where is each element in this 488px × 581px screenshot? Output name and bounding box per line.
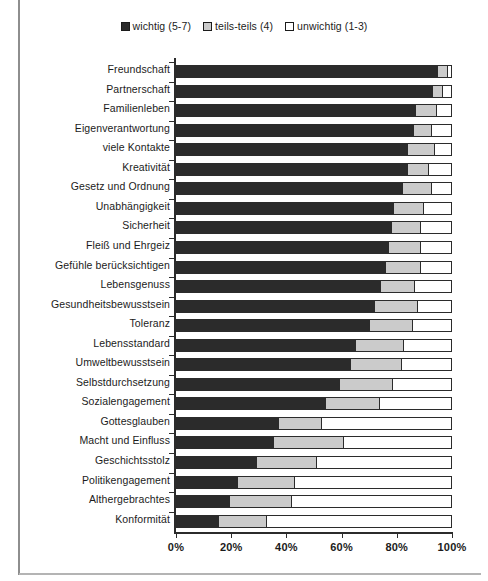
bar-row: Sozialengagement	[0, 394, 488, 414]
bar-segment	[369, 320, 413, 331]
bar-segment	[432, 183, 451, 194]
category-label: Eigenverantwortung	[0, 122, 170, 134]
bar-segment	[229, 496, 292, 507]
bar-segment	[295, 477, 451, 488]
bar-segment	[322, 418, 451, 429]
category-label: Selbstdurchsetzung	[0, 376, 170, 388]
x-axis-tick	[231, 532, 232, 538]
bar-segment	[385, 262, 421, 273]
category-label: Kreativität	[0, 161, 170, 173]
bar-segment	[177, 496, 229, 507]
bar-row: Konformität	[0, 512, 488, 532]
bar-row: Lebensgenuss	[0, 277, 488, 297]
bar-segment	[421, 262, 451, 273]
x-axis-line	[174, 532, 453, 534]
bar-segment	[218, 516, 267, 527]
category-label: Lebensstandard	[0, 337, 170, 349]
bar-row: Macht und Einfluss	[0, 433, 488, 453]
bar-row: Toleranz	[0, 316, 488, 336]
bar-segment	[393, 379, 451, 390]
category-label: Gesetz und Ordnung	[0, 180, 170, 192]
bar-segment	[177, 144, 407, 155]
bar-segment	[177, 105, 415, 116]
bar-segment	[273, 437, 344, 448]
stacked-bar	[176, 456, 452, 469]
stacked-bar	[176, 417, 452, 430]
bar-row: Politikengagement	[0, 473, 488, 493]
category-label: Lebensgenuss	[0, 278, 170, 290]
bar-segment	[325, 398, 380, 409]
category-label: Gottesglauben	[0, 415, 170, 427]
bar-segment	[177, 66, 437, 77]
x-axis-tick-label: 20%	[220, 541, 243, 553]
stacked-bar	[176, 104, 452, 117]
bar-segment	[402, 359, 451, 370]
category-label: Konformität	[0, 513, 170, 525]
category-label: Freundschaft	[0, 63, 170, 75]
bar-row: Althergebrachtes	[0, 492, 488, 512]
bar-segment	[402, 183, 432, 194]
category-label: Althergebrachtes	[0, 493, 170, 505]
bar-row: Kreativität	[0, 160, 488, 180]
bar-row: Geschichtsstolz	[0, 453, 488, 473]
category-label: Toleranz	[0, 317, 170, 329]
category-label: viele Kontakte	[0, 141, 170, 153]
bar-segment	[317, 457, 451, 468]
bar-segment	[177, 379, 339, 390]
bar-segment	[237, 477, 295, 488]
category-label: Sozialengagement	[0, 395, 170, 407]
category-label: Fleiß und Ehrgeiz	[0, 239, 170, 251]
bar-segment	[388, 242, 421, 253]
bar-segment	[407, 144, 434, 155]
stacked-bar	[176, 397, 452, 410]
stacked-bar	[176, 339, 452, 352]
stacked-bar	[176, 319, 452, 332]
bar-segment	[177, 457, 256, 468]
bar-segment	[177, 222, 391, 233]
x-axis-tick	[176, 532, 177, 538]
stacked-bar	[176, 221, 452, 234]
bar-segment	[429, 164, 451, 175]
bar-segment	[292, 496, 451, 507]
bar-segment	[374, 301, 418, 312]
bar-segment	[177, 301, 374, 312]
bar-segment	[413, 125, 432, 136]
bar-segment	[177, 183, 402, 194]
x-axis-tick	[452, 532, 453, 538]
stacked-bar	[176, 300, 452, 313]
bar-segment	[393, 203, 423, 214]
x-axis-tick-label: 80%	[385, 541, 408, 553]
bar-row: Familienleben	[0, 101, 488, 121]
bar-segment	[177, 86, 432, 97]
bar-segment	[418, 301, 451, 312]
bar-segment	[432, 86, 443, 97]
bar-segment	[413, 320, 451, 331]
bar-segment	[435, 144, 451, 155]
bar-segment	[415, 105, 437, 116]
bar-segment	[407, 164, 429, 175]
bar-segment	[177, 281, 380, 292]
bar-row: Fleiß und Ehrgeiz	[0, 238, 488, 258]
stacked-bar	[176, 358, 452, 371]
category-label: Partnerschaft	[0, 83, 170, 95]
stacked-bar	[176, 280, 452, 293]
bar-row: Sicherheit	[0, 218, 488, 238]
bar-segment	[177, 203, 393, 214]
x-axis-tick	[397, 532, 398, 538]
bar-row: viele Kontakte	[0, 140, 488, 160]
bar-row: Gottesglauben	[0, 414, 488, 434]
category-label: Gefühle berücksichtigen	[0, 259, 170, 271]
bar-row: Lebensstandard	[0, 336, 488, 356]
category-label: Geschichtsstolz	[0, 454, 170, 466]
bar-segment	[177, 164, 407, 175]
bar-segment	[437, 105, 451, 116]
stacked-bar	[176, 163, 452, 176]
bar-row: Unabhängigkeit	[0, 199, 488, 219]
bar-segment	[177, 340, 355, 351]
bar-segment	[380, 398, 451, 409]
bar-segment	[177, 418, 278, 429]
bar-row: Partnerschaft	[0, 82, 488, 102]
category-label: Umweltbewusstsein	[0, 356, 170, 368]
category-label: Politikengagement	[0, 474, 170, 486]
stacked-bar	[176, 202, 452, 215]
